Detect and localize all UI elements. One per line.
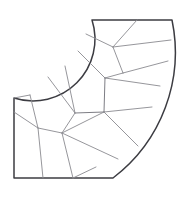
figure-root [0,0,184,197]
annular-sector-diagram [0,0,184,197]
partition-line [14,95,30,98]
sector-outline [14,20,175,178]
